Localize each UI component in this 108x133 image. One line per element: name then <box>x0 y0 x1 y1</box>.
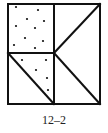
figure-caption: 12–2 <box>0 113 108 127</box>
shading-dot <box>45 59 47 61</box>
shading-dot <box>47 89 49 91</box>
right-upper-diagonal <box>54 4 100 53</box>
shading-dot <box>26 18 28 20</box>
shading-dot <box>15 6 17 8</box>
shading-dot <box>21 59 23 61</box>
shading-dot <box>46 77 48 79</box>
shading-dot <box>24 37 26 39</box>
geometric-figure <box>0 0 108 110</box>
shading-dot <box>42 40 44 42</box>
shading-dot <box>34 47 36 49</box>
right-lower-diagonal <box>54 53 100 104</box>
shading-dot <box>15 25 17 27</box>
shading-dot <box>37 9 39 11</box>
shading-dot <box>13 44 15 46</box>
shading-dot <box>43 20 45 22</box>
shading-dot <box>35 69 37 71</box>
shading-dot <box>34 27 36 29</box>
